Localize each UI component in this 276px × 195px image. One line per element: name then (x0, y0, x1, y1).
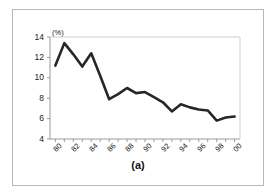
figure-caption: (a) (0, 159, 276, 171)
data-series-line (55, 43, 234, 121)
y-tick-label: 12 (22, 53, 44, 62)
y-tick-label: 8 (22, 94, 44, 103)
y-tick-label: 4 (22, 135, 44, 144)
y-tick-label: 6 (22, 114, 44, 123)
y-tick-label: 10 (22, 73, 44, 82)
axis-frame (50, 37, 240, 139)
y-tick-label: 14 (22, 33, 44, 42)
figure-panel: (%) 468101214 8082848688909294969800 (a) (0, 0, 276, 195)
